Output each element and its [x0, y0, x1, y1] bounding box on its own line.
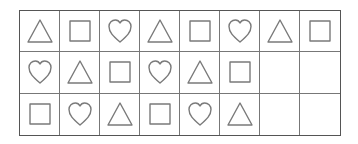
grid-cell-empty [300, 52, 340, 93]
triangle-icon [147, 18, 173, 44]
grid-cell-triangle [180, 52, 220, 93]
square-icon [27, 101, 53, 127]
heart-icon [227, 18, 253, 44]
grid-cell-triangle [220, 94, 260, 135]
heart-icon [187, 101, 213, 127]
triangle-icon [107, 101, 133, 127]
square-icon [227, 59, 253, 85]
grid-cell-empty [260, 52, 300, 93]
grid-cell-heart [180, 94, 220, 135]
grid-cell-triangle [60, 52, 100, 93]
triangle-icon [187, 59, 213, 85]
grid-cell-square [300, 11, 340, 52]
shape-pattern-grid [19, 10, 341, 136]
grid-cell-heart [60, 94, 100, 135]
grid-cell-heart [140, 52, 180, 93]
grid-cell-square [60, 11, 100, 52]
grid-cell-square [20, 94, 60, 135]
grid-cell-triangle [100, 94, 140, 135]
grid-cell-triangle [260, 11, 300, 52]
heart-icon [27, 59, 53, 85]
grid-cell-square [100, 52, 140, 93]
grid-cell-empty [300, 94, 340, 135]
grid-cell-square [140, 94, 180, 135]
triangle-icon [27, 18, 53, 44]
grid-cell-heart [100, 11, 140, 52]
heart-icon [147, 59, 173, 85]
square-icon [107, 59, 133, 85]
heart-icon [67, 101, 93, 127]
grid-cell-heart [220, 11, 260, 52]
grid-cell-triangle [20, 11, 60, 52]
triangle-icon [227, 101, 253, 127]
grid-cell-triangle [140, 11, 180, 52]
square-icon [187, 18, 213, 44]
triangle-icon [267, 18, 293, 44]
triangle-icon [67, 59, 93, 85]
heart-icon [107, 18, 133, 44]
grid-cell-square [220, 52, 260, 93]
square-icon [307, 18, 333, 44]
grid-cell-square [180, 11, 220, 52]
square-icon [67, 18, 93, 44]
grid-cell-heart [20, 52, 60, 93]
square-icon [147, 101, 173, 127]
grid-cell-empty [260, 94, 300, 135]
